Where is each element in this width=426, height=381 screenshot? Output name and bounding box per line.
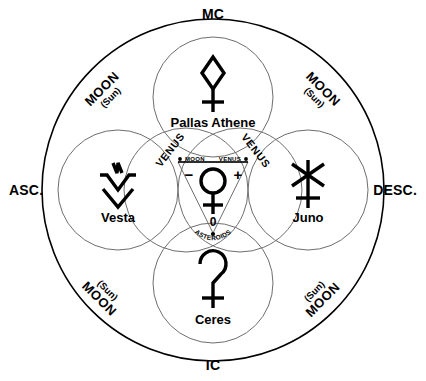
planet-name-vesta: Vesta bbox=[101, 210, 136, 225]
quadrant-label-top-left: MOON (Sun) bbox=[82, 69, 129, 116]
core-left-node-label: MOON bbox=[185, 156, 205, 162]
juno-glyph bbox=[292, 160, 324, 208]
core-minus-sign: − bbox=[185, 166, 194, 183]
quadrant-label-bottom-left: (Sun) MOON bbox=[79, 271, 126, 318]
pallas-athene-glyph bbox=[202, 57, 224, 112]
axis-label-ic: IC bbox=[206, 357, 220, 373]
diagram-canvas: MC IC ASC. DESC. MOON (Sun) MOON (Sun) (… bbox=[0, 0, 426, 381]
quadrant-label-top-right: MOON (Sun) bbox=[296, 69, 343, 116]
axis-label-mc: MC bbox=[202, 6, 224, 22]
core-right-node-dot bbox=[244, 157, 248, 161]
outer-circle bbox=[42, 19, 384, 361]
planet-name-juno: Juno bbox=[292, 210, 323, 225]
ceres-glyph bbox=[200, 251, 226, 308]
quadrant-label-bottom-right: (Sun) MOON bbox=[295, 272, 342, 319]
planet-name-pallas: Pallas Athene bbox=[171, 115, 256, 130]
core-zero-label: 0 bbox=[210, 215, 217, 229]
core-plus-sign: + bbox=[234, 166, 243, 183]
core-apex-dot bbox=[211, 232, 215, 236]
inner-arc-label-venus-right: VENUS bbox=[239, 131, 273, 170]
core-left-node-dot bbox=[178, 157, 182, 161]
axis-label-asc: ASC. bbox=[9, 182, 43, 198]
inner-arc-label-venus-left: VENUS bbox=[153, 130, 187, 169]
venus-glyph bbox=[201, 169, 225, 214]
vesta-glyph bbox=[100, 163, 136, 207]
planet-name-ceres: Ceres bbox=[195, 312, 231, 327]
astrology-asteroid-wheel: MC IC ASC. DESC. MOON (Sun) MOON (Sun) (… bbox=[0, 0, 426, 381]
axis-label-desc: DESC. bbox=[373, 182, 417, 198]
core-right-node-label: VENUS bbox=[219, 156, 241, 162]
